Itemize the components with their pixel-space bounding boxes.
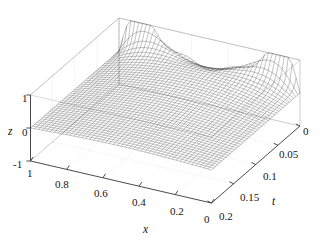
- surface-plot-figure: 1 0 -1 1 0.8 0.6 0.4 0.2 0 0.2 0.15 0.1 …: [0, 0, 320, 247]
- surface-plot-canvas: [0, 0, 320, 247]
